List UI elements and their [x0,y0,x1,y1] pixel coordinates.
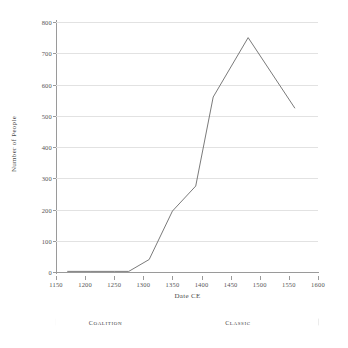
y-axis-tick-labels: 0100200300400500600700800 [26,22,52,272]
x-tick-mark-1350 [172,276,173,280]
period-annotation-coalition: Coalition [56,316,155,334]
x-tick-label-1500: 1500 [253,281,267,288]
x-tick-label-1300: 1300 [136,281,150,288]
x-tick-label-1350: 1350 [166,281,180,288]
x-tick-mark-1450 [231,276,232,280]
x-axis-spine [56,272,319,273]
x-tick-mark-1400 [202,276,203,280]
x-tick-mark-1300 [143,276,144,280]
y-tick-label-800: 800 [42,19,52,26]
y-tick-label-600: 600 [42,81,52,88]
period-annotations: CoalitionClassic [0,316,348,340]
y-tick-label-700: 700 [42,50,52,57]
y-tick-label-400: 400 [42,144,52,151]
x-tick-label-1600: 1600 [311,281,325,288]
chart-figure: 0100200300400500600700800 11501200125013… [0,0,348,348]
y-axis-title: Number of People [10,94,18,194]
plot-area [56,22,318,272]
x-tick-label-1400: 1400 [195,281,209,288]
period-annotation-classic: Classic [158,316,318,334]
x-tick-label-1550: 1550 [282,281,296,288]
series-path-0 [68,38,295,272]
x-axis-title: Date CE [56,292,319,300]
y-tick-label-0: 0 [49,269,52,276]
x-tick-label-1250: 1250 [107,281,121,288]
period-label-coalition: Coalition [56,318,155,327]
series-line-number-of-people [56,22,318,272]
x-tick-label-1200: 1200 [78,281,92,288]
x-tick-mark-1200 [85,276,86,280]
y-tick-mark-0 [53,272,56,273]
x-tick-label-1450: 1450 [224,281,238,288]
y-tick-label-500: 500 [42,112,52,119]
x-tick-mark-1150 [56,276,57,280]
x-tick-label-1150: 1150 [49,281,63,288]
x-tick-mark-1500 [260,276,261,280]
x-tick-mark-1600 [318,276,319,280]
y-tick-label-100: 100 [42,237,52,244]
x-tick-mark-1550 [289,276,290,280]
period-label-classic: Classic [158,318,318,327]
y-tick-label-200: 200 [42,206,52,213]
x-axis-tick-labels: 1150120012501300135014001450150015501600 [56,276,319,290]
y-tick-label-300: 300 [42,175,52,182]
x-tick-mark-1250 [114,276,115,280]
